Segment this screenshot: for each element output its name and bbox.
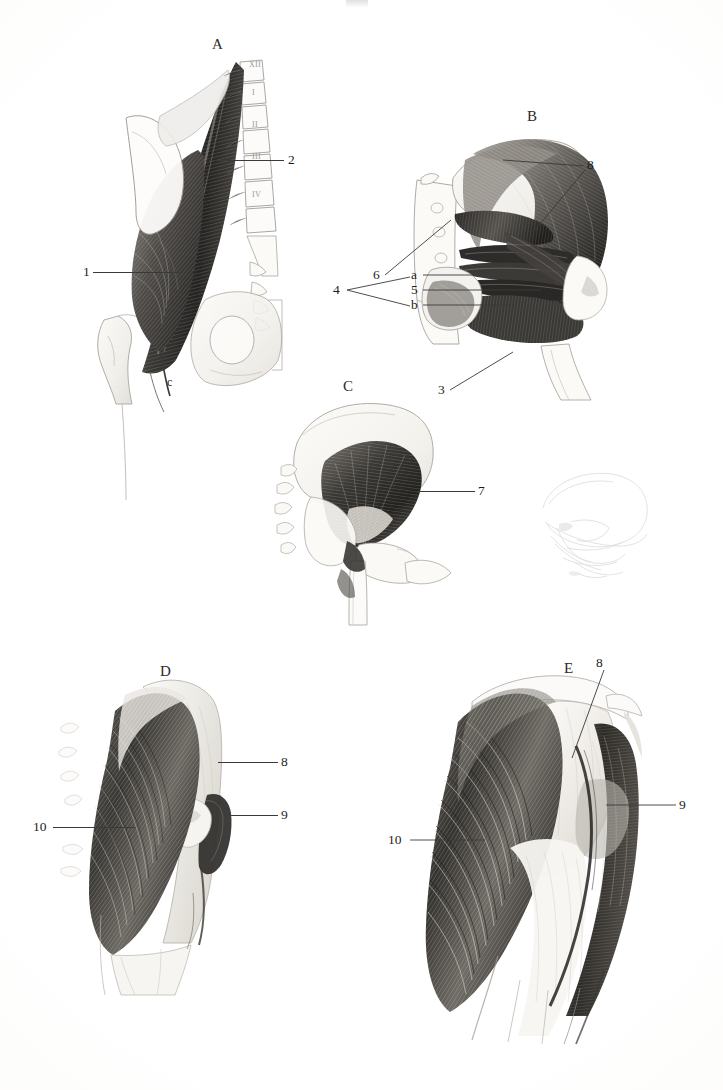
label-b-8: 8 [587, 157, 594, 173]
panel-e-leader-group [380, 650, 710, 1050]
vertebra-label-xii: XII [249, 60, 261, 69]
panel-b: B [355, 100, 685, 400]
panel-c-illustration [255, 375, 505, 625]
panel-d-illustration [55, 655, 325, 995]
anatomical-plate: A [0, 0, 723, 1090]
label-d-10: 10 [33, 819, 47, 835]
panel-c: C [255, 375, 505, 625]
panel-b-leader-group [355, 100, 685, 400]
label-b-a: a [411, 267, 417, 283]
label-a-1: 1 [83, 264, 90, 280]
label-e-9: 9 [679, 797, 686, 813]
label-e-8: 8 [596, 655, 603, 671]
label-b-b: b [411, 297, 418, 313]
leader-line-a-1 [93, 272, 183, 273]
leader-line-d-8 [218, 762, 278, 763]
leader-line-a-2 [209, 160, 284, 161]
vertebra-label-ii: II [252, 120, 258, 129]
ghost-sketch-illustration [505, 462, 685, 592]
top-edge-plate-mark [346, 0, 368, 7]
panel-a-letter: A [212, 36, 223, 53]
leader-line-d-10 [53, 827, 135, 828]
label-c-7: 7 [478, 483, 485, 499]
label-a-c: c [167, 375, 172, 390]
panel-a-illustration [0, 0, 330, 420]
leader-line-c-7 [413, 491, 475, 492]
panel-d-letter: D [160, 663, 171, 680]
label-a-2: 2 [288, 152, 295, 168]
label-d-9: 9 [281, 807, 288, 823]
panel-a: A [0, 0, 330, 420]
label-e-10: 10 [388, 832, 402, 848]
label-b-4-bracket: 4 [333, 282, 340, 298]
panel-e: E [380, 650, 710, 1050]
panel-d: D [55, 655, 325, 995]
vertebra-label-iv: IV [252, 190, 261, 199]
leader-line-d-9 [231, 815, 278, 816]
label-b-5: 5 [411, 282, 418, 298]
label-b-6: 6 [373, 267, 380, 283]
label-d-8: 8 [281, 754, 288, 770]
ghost-pelvis-sketch [505, 462, 685, 592]
vertebra-label-i: I [252, 88, 255, 97]
panel-c-letter: C [343, 378, 354, 395]
